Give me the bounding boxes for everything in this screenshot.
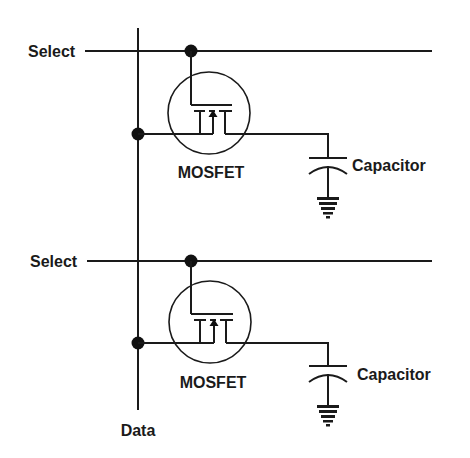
ground-icon-1: [317, 197, 339, 219]
capacitor-symbol-1: [309, 158, 347, 198]
mosfet-symbol-2: [169, 261, 251, 363]
mosfet-envelope-2: [169, 281, 251, 363]
capacitor-label-1: Capacitor: [352, 157, 426, 174]
data-label: Data: [121, 422, 156, 439]
memory-cell-2: Select MOSFET Capacitor: [30, 253, 432, 427]
mosfet-envelope-1: [168, 72, 250, 154]
dram-cell-diagram: Data Select MOSFET: [0, 0, 470, 458]
memory-cell-1: Select MOSFET: [28, 43, 432, 219]
mosfet-symbol-1: [168, 51, 250, 154]
select-label-1: Select: [28, 43, 76, 60]
mosfet-label-2: MOSFET: [180, 374, 247, 391]
mosfet-label-1: MOSFET: [178, 164, 245, 181]
capacitor-symbol-2: [309, 366, 347, 406]
ground-icon-2: [317, 405, 339, 427]
select-label-2: Select: [30, 253, 78, 270]
capacitor-label-2: Capacitor: [357, 366, 431, 383]
